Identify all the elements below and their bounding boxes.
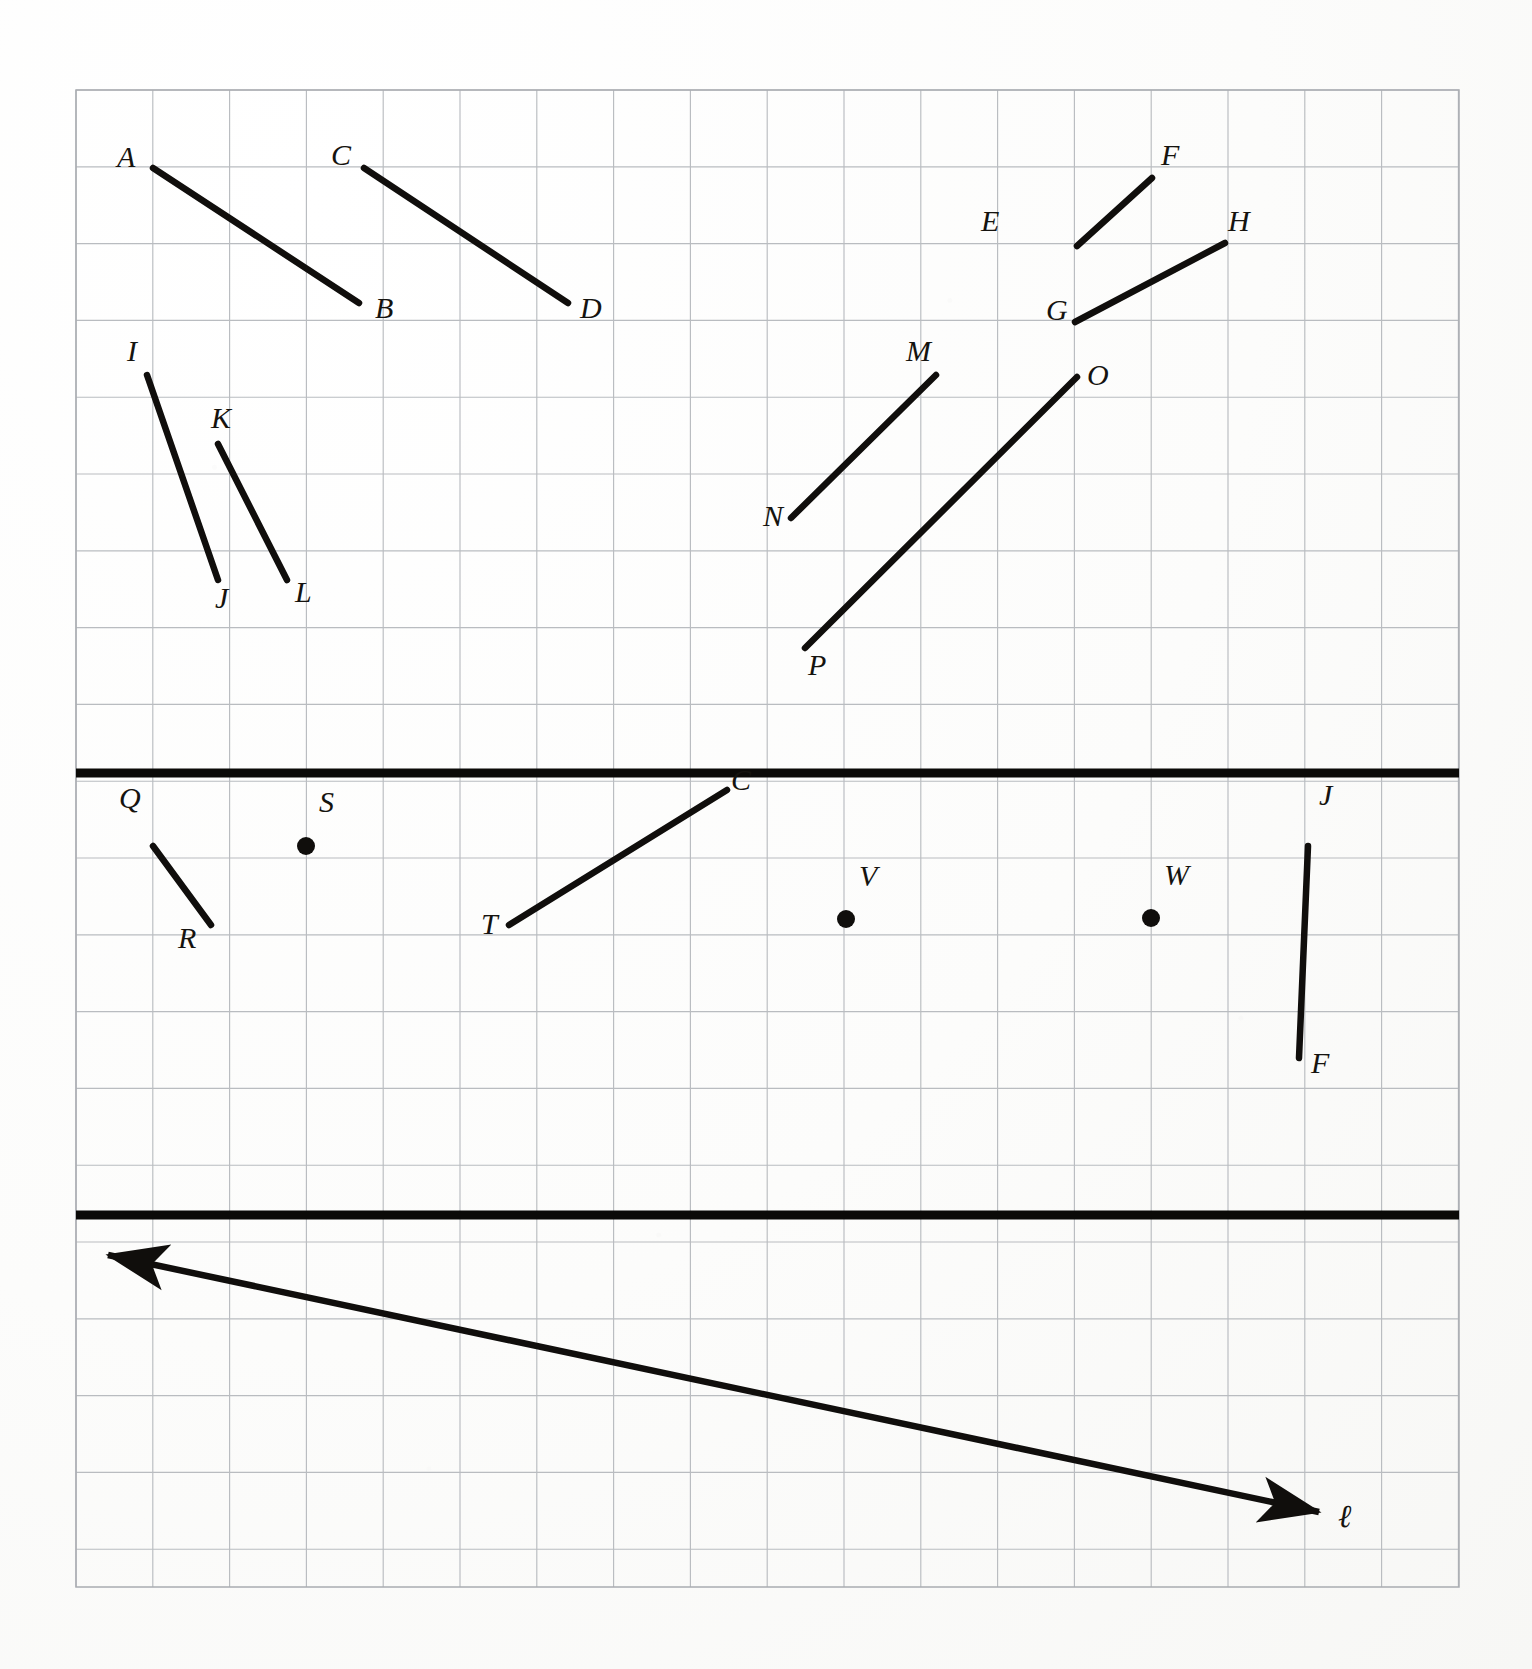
panel-segments-top: ABCDEFGHIJKLMNOP: [115, 138, 1252, 681]
geometry-figure: ABCDEFGHIJKLMNOP QRTCJFSVW ℓ: [0, 0, 1532, 1669]
point-label-R-QR-end: R: [177, 921, 196, 954]
point-label-Q-QR-start: Q: [119, 781, 141, 814]
point-label-J-JF-start: J: [1319, 778, 1334, 811]
segment-line-KL: [218, 444, 287, 580]
point-label-I-IJ-start: I: [126, 334, 139, 367]
point-label-A-AB-start: A: [115, 140, 136, 173]
point-W: W: [1142, 858, 1192, 927]
segment-QR: QR: [119, 781, 211, 954]
point-label-H-GH-end: H: [1227, 204, 1252, 237]
segment-MN: MN: [762, 334, 936, 532]
segment-line-JF: [1299, 846, 1308, 1058]
point-dot-S: [297, 837, 315, 855]
point-label-F-JF-end: F: [1310, 1046, 1330, 1079]
point-S: S: [297, 785, 334, 855]
point-label-W: W: [1164, 858, 1192, 891]
segment-line-MN: [791, 375, 936, 518]
point-label-E-EF-start: E: [980, 204, 999, 237]
worksheet-page: ABCDEFGHIJKLMNOP QRTCJFSVW ℓ: [0, 0, 1532, 1669]
line-ell: ℓ: [108, 1255, 1352, 1534]
point-dot-V: [837, 910, 855, 928]
point-label-N-MN-end: N: [762, 499, 785, 532]
line-stroke-ell: [108, 1255, 1319, 1512]
segment-OP: OP: [805, 358, 1109, 681]
graph-paper-grid: [76, 90, 1459, 1587]
point-dot-W: [1142, 909, 1160, 927]
segment-line-IJ: [147, 375, 218, 580]
segment-line-AB: [153, 168, 359, 303]
segment-line-GH: [1075, 243, 1225, 322]
point-label-K-KL-start: K: [210, 401, 233, 434]
point-label-S: S: [319, 785, 334, 818]
point-label-D-CD-end: D: [579, 291, 602, 324]
point-label-F-EF-end: F: [1160, 138, 1180, 171]
point-label-C-CD-start: C: [331, 138, 352, 171]
point-label-V: V: [859, 859, 881, 892]
point-label-T-TC-start: T: [481, 907, 500, 940]
segment-GH: GH: [1046, 204, 1252, 326]
segment-CD: CD: [331, 138, 602, 324]
segment-line-EF: [1077, 178, 1152, 246]
line-label-ell: ℓ: [1338, 1498, 1352, 1534]
point-label-M-MN-start: M: [905, 334, 933, 367]
panel-line-bottom: ℓ: [108, 1255, 1352, 1534]
point-label-G-GH-start: G: [1046, 293, 1068, 326]
segment-line-OP: [805, 377, 1077, 648]
segment-TC: TC: [481, 763, 752, 940]
segment-line-CD: [364, 168, 568, 303]
point-label-B-AB-end: B: [375, 291, 393, 324]
point-label-C-TC-end: C: [731, 763, 752, 796]
segment-EF: EF: [980, 138, 1180, 246]
point-label-J-IJ-end: J: [215, 581, 230, 614]
point-label-L-KL-end: L: [294, 575, 312, 608]
point-label-P-OP-end: P: [807, 648, 826, 681]
segment-KL: KL: [210, 401, 312, 608]
segment-AB: AB: [115, 140, 393, 324]
point-label-O-OP-start: O: [1087, 358, 1109, 391]
